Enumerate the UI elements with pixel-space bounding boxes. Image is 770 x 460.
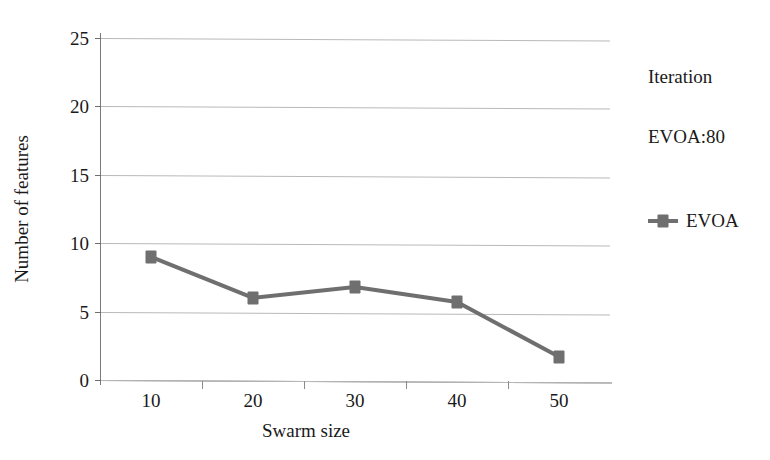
data-point-marker [554, 350, 565, 363]
data-point-marker [248, 291, 259, 304]
x-axis-title: Swarm size [0, 420, 612, 442]
y-axis-title: Number of features [11, 135, 33, 283]
y-axis-tick-label: 10 [70, 234, 89, 253]
legend-entries: EVOA [648, 210, 768, 232]
data-point-marker [350, 280, 361, 293]
x-axis-tick [508, 381, 509, 389]
x-axis-tick-label: 10 [142, 391, 161, 410]
data-point-marker [452, 296, 463, 309]
legend-subtitle: EVOA:80 [648, 126, 768, 148]
legend-entry[interactable]: EVOA [648, 210, 768, 232]
series-lines [100, 38, 610, 380]
chart-figure: 2520151050 1020304050 Swarm size Number … [0, 0, 770, 460]
x-axis-tick-label: 50 [550, 391, 569, 410]
y-axis-tick-label: 5 [80, 302, 90, 321]
y-axis-tick-label: 0 [80, 371, 90, 390]
y-axis-tick-label: 25 [70, 29, 89, 48]
x-axis-tick-label: 30 [346, 391, 365, 410]
legend-entry-label: EVOA [686, 210, 739, 232]
x-axis-tick-label: 20 [244, 391, 263, 410]
plot-area: 2520151050 [100, 38, 610, 380]
x-axis-ticks: 1020304050 [100, 381, 610, 421]
legend-square-marker-icon [648, 214, 678, 228]
x-axis-tick [406, 381, 407, 389]
x-axis-tick [304, 381, 305, 389]
y-axis-tick-label: 15 [70, 165, 89, 184]
x-axis-tick [202, 381, 203, 389]
legend: Iteration EVOA:80 EVOA [648, 66, 768, 232]
y-axis-tick-label: 20 [70, 97, 89, 116]
legend-title: Iteration [648, 66, 768, 88]
x-axis-tick-label: 40 [448, 391, 467, 410]
data-point-marker [146, 250, 157, 263]
series-line-evoa [151, 257, 559, 357]
